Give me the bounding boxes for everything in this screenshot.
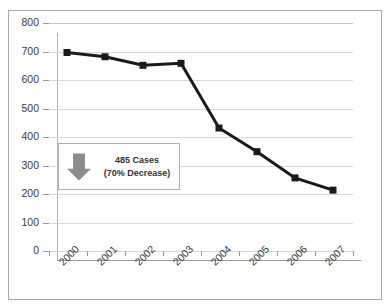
y-axis-tick (43, 223, 49, 224)
x-axis-tick (277, 251, 278, 256)
y-axis-tick (43, 194, 49, 195)
x-axis-tick (125, 251, 126, 256)
y-axis-label: 200 (9, 188, 39, 199)
gridline (49, 52, 353, 53)
x-axis-tick (315, 251, 316, 256)
gridline (49, 109, 353, 110)
x-axis-tick (239, 251, 240, 256)
y-axis-tick (43, 52, 49, 53)
y-axis-label: 0 (9, 245, 39, 256)
annotation-line-1: 485 Cases (99, 154, 175, 166)
x-axis-tick (49, 251, 50, 256)
y-axis-label: 400 (9, 131, 39, 142)
gridline (49, 80, 353, 81)
y-axis-label: 100 (9, 217, 39, 228)
y-axis-tick (43, 80, 49, 81)
x-axis-tick (163, 251, 164, 256)
y-axis-label: 500 (9, 103, 39, 114)
x-axis-tick (201, 251, 202, 256)
y-axis-tick (43, 166, 49, 167)
y-axis-label: 800 (9, 17, 39, 28)
y-axis-tick (43, 137, 49, 138)
y-axis-label: 700 (9, 46, 39, 57)
annotation-line-2: (70% Decrease) (99, 167, 175, 179)
annotation-text: 485 Cases (70% Decrease) (99, 154, 179, 178)
y-axis-label: 600 (9, 74, 39, 85)
y-axis-label: 300 (9, 160, 39, 171)
gridline (49, 23, 353, 24)
down-arrow-icon (59, 147, 99, 187)
y-axis-tick (43, 23, 49, 24)
y-axis-tick (43, 109, 49, 110)
x-axis-tick (353, 251, 354, 256)
annotation-callout: 485 Cases (70% Decrease) (58, 143, 180, 190)
gridline (49, 194, 353, 195)
x-axis-tick (87, 251, 88, 256)
gridline (49, 223, 353, 224)
gridline (49, 137, 353, 138)
